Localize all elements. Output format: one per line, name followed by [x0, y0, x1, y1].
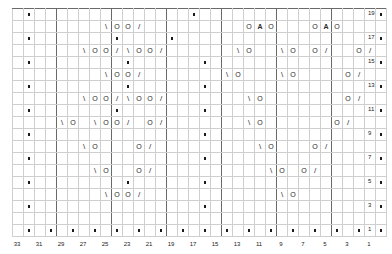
chart-cell[interactable]: [112, 129, 123, 141]
chart-cell[interactable]: /: [112, 93, 123, 105]
chart-cell[interactable]: [222, 177, 233, 189]
chart-cell[interactable]: [123, 165, 134, 177]
chart-cell[interactable]: [57, 201, 68, 213]
chart-cell[interactable]: [343, 213, 354, 225]
chart-cell[interactable]: [343, 177, 354, 189]
chart-cell[interactable]: [365, 165, 376, 177]
chart-cell[interactable]: [277, 177, 288, 189]
chart-cell[interactable]: [35, 153, 46, 165]
chart-cell[interactable]: [57, 129, 68, 141]
chart-cell[interactable]: [211, 213, 222, 225]
chart-cell[interactable]: [365, 117, 376, 129]
chart-cell[interactable]: [376, 81, 387, 93]
chart-cell[interactable]: [376, 177, 387, 189]
chart-cell[interactable]: [343, 189, 354, 201]
chart-cell[interactable]: [35, 189, 46, 201]
chart-cell[interactable]: [24, 105, 35, 117]
chart-cell[interactable]: \: [233, 45, 244, 57]
chart-cell[interactable]: /: [365, 45, 376, 57]
chart-cell[interactable]: O: [145, 117, 156, 129]
chart-cell[interactable]: [90, 213, 101, 225]
chart-cell[interactable]: [244, 81, 255, 93]
chart-cell[interactable]: [167, 213, 178, 225]
chart-cell[interactable]: [13, 129, 24, 141]
chart-cell[interactable]: [266, 33, 277, 45]
chart-cell[interactable]: [310, 93, 321, 105]
chart-cell[interactable]: [167, 117, 178, 129]
chart-cell[interactable]: [112, 165, 123, 177]
chart-cell[interactable]: [354, 201, 365, 213]
chart-cell[interactable]: [57, 189, 68, 201]
chart-cell[interactable]: [13, 225, 24, 237]
chart-cell[interactable]: O: [266, 141, 277, 153]
chart-cell[interactable]: [222, 21, 233, 33]
chart-cell[interactable]: [200, 201, 211, 213]
chart-cell[interactable]: [90, 33, 101, 45]
chart-cell[interactable]: [222, 189, 233, 201]
chart-cell[interactable]: O: [134, 93, 145, 105]
chart-cell[interactable]: [35, 81, 46, 93]
chart-cell[interactable]: [321, 177, 332, 189]
chart-cell[interactable]: [189, 141, 200, 153]
chart-cell[interactable]: [343, 21, 354, 33]
chart-cell[interactable]: [277, 141, 288, 153]
chart-cell[interactable]: [35, 213, 46, 225]
chart-cell[interactable]: /: [123, 117, 134, 129]
chart-cell[interactable]: O: [112, 21, 123, 33]
chart-cell[interactable]: [310, 225, 321, 237]
chart-cell[interactable]: [145, 189, 156, 201]
chart-cell[interactable]: [244, 225, 255, 237]
chart-cell[interactable]: [332, 69, 343, 81]
chart-cell[interactable]: O: [145, 45, 156, 57]
chart-cell[interactable]: [167, 21, 178, 33]
chart-cell[interactable]: \: [266, 165, 277, 177]
chart-cell[interactable]: [222, 165, 233, 177]
chart-cell[interactable]: [167, 57, 178, 69]
chart-cell[interactable]: [222, 81, 233, 93]
chart-cell[interactable]: [376, 105, 387, 117]
chart-cell[interactable]: \: [244, 93, 255, 105]
chart-cell[interactable]: [90, 105, 101, 117]
chart-cell[interactable]: [233, 21, 244, 33]
chart-cell[interactable]: [277, 21, 288, 33]
chart-cell[interactable]: [178, 165, 189, 177]
chart-cell[interactable]: [255, 45, 266, 57]
chart-cell[interactable]: [79, 177, 90, 189]
chart-cell[interactable]: [46, 201, 57, 213]
chart-cell[interactable]: [68, 189, 79, 201]
chart-cell[interactable]: [13, 201, 24, 213]
chart-cell[interactable]: [189, 21, 200, 33]
chart-cell[interactable]: [90, 21, 101, 33]
chart-cell[interactable]: [101, 141, 112, 153]
chart-cell[interactable]: [178, 177, 189, 189]
chart-cell[interactable]: [68, 9, 79, 21]
chart-cell[interactable]: [321, 213, 332, 225]
chart-cell[interactable]: [266, 153, 277, 165]
chart-cell[interactable]: [277, 9, 288, 21]
chart-cell[interactable]: [255, 57, 266, 69]
chart-cell[interactable]: [79, 213, 90, 225]
chart-cell[interactable]: [332, 129, 343, 141]
chart-cell[interactable]: [178, 9, 189, 21]
chart-cell[interactable]: [332, 141, 343, 153]
chart-cell[interactable]: [79, 201, 90, 213]
chart-cell[interactable]: [189, 129, 200, 141]
chart-cell[interactable]: /: [354, 93, 365, 105]
chart-cell[interactable]: [277, 93, 288, 105]
chart-cell[interactable]: [189, 153, 200, 165]
chart-cell[interactable]: [68, 81, 79, 93]
chart-cell[interactable]: [211, 9, 222, 21]
chart-cell[interactable]: [101, 9, 112, 21]
chart-cell[interactable]: [299, 213, 310, 225]
chart-cell[interactable]: [35, 225, 46, 237]
chart-cell[interactable]: [134, 213, 145, 225]
chart-cell[interactable]: [266, 69, 277, 81]
chart-cell[interactable]: [376, 117, 387, 129]
chart-cell[interactable]: [24, 21, 35, 33]
chart-cell[interactable]: [288, 33, 299, 45]
chart-cell[interactable]: [277, 129, 288, 141]
chart-cell[interactable]: [343, 81, 354, 93]
chart-cell[interactable]: [167, 105, 178, 117]
chart-cell[interactable]: O: [310, 45, 321, 57]
chart-cell[interactable]: [156, 105, 167, 117]
